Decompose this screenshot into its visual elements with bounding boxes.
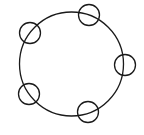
ring-diagram — [0, 0, 144, 135]
small-circle-bottom — [78, 102, 99, 123]
main-circle — [20, 12, 124, 116]
small-circles-group — [19, 5, 136, 123]
small-circle-right — [115, 55, 136, 76]
